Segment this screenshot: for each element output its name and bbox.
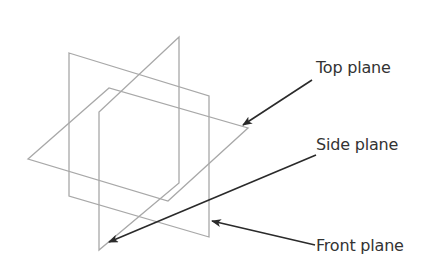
- top-plane-outline: [28, 88, 248, 201]
- top-plane-label: Top plane: [316, 60, 391, 76]
- front-plane-label: Front plane: [316, 238, 404, 254]
- top-plane-arrow: [243, 80, 312, 125]
- diagram-canvas: Top plane Side plane Front plane: [0, 0, 429, 278]
- front-plane-arrow: [212, 221, 315, 245]
- side-plane-arrow: [109, 155, 316, 242]
- side-plane-label: Side plane: [316, 137, 398, 153]
